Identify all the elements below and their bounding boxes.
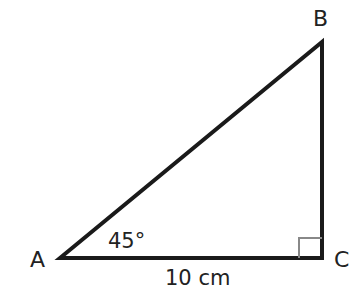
side-label-ac: 10 cm	[165, 266, 230, 290]
vertex-label-c: C	[334, 247, 349, 272]
vertex-label-a: A	[30, 247, 45, 272]
triangle-diagram: A B C 45° 10 cm	[0, 0, 360, 298]
right-angle-marker	[299, 238, 322, 258]
angle-label-a: 45°	[108, 229, 145, 253]
vertex-label-b: B	[313, 6, 328, 31]
triangle-abc	[60, 42, 322, 258]
